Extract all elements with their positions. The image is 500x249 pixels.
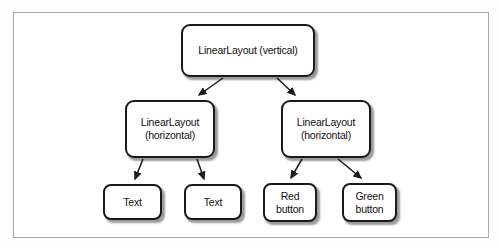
node-linearlayout-horizontal-right: LinearLayout (horizontal): [281, 100, 371, 158]
node-label: LinearLayout (horizontal): [297, 116, 355, 141]
node-label: Red button: [276, 190, 304, 215]
node-label: Green button: [355, 190, 383, 215]
node-linearlayout-horizontal-left: LinearLayout (horizontal): [125, 100, 215, 158]
node-green-button: Green button: [342, 183, 397, 222]
figure-canvas: LinearLayout (vertical) LinearLayout (ho…: [0, 0, 500, 249]
node-text-1: Text: [103, 184, 162, 220]
node-label: LinearLayout (vertical): [198, 44, 297, 57]
node-label: Text: [204, 196, 222, 209]
node-linearlayout-vertical: LinearLayout (vertical): [181, 24, 315, 77]
node-red-button: Red button: [263, 183, 317, 222]
node-label: Text: [123, 196, 141, 209]
node-text-2: Text: [184, 184, 242, 220]
node-label: LinearLayout (horizontal): [141, 116, 199, 141]
